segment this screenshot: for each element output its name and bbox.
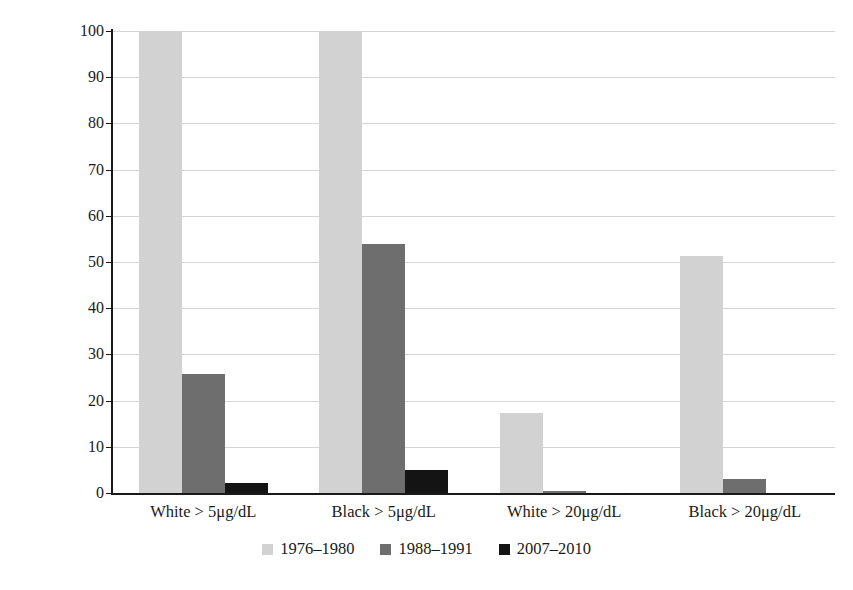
legend-swatch-icon	[380, 544, 391, 555]
bar	[500, 413, 543, 493]
bar	[225, 483, 268, 493]
y-axis-tick-labels: 1009080706050403020100	[58, 31, 104, 493]
bar	[405, 470, 448, 493]
bar	[182, 374, 225, 493]
legend-item: 1988–1991	[380, 540, 472, 558]
bar	[319, 31, 362, 493]
y-axis-title: % of U.S. children under age five	[10, 0, 36, 83]
legend-item: 1976–1980	[262, 540, 354, 558]
y-axis-tick-label: 0	[64, 485, 104, 501]
y-axis-tick-label: 80	[64, 115, 104, 131]
y-axis-tick-label: 10	[64, 439, 104, 455]
y-axis-tick-label: 60	[64, 208, 104, 224]
legend-label: 2007–2010	[517, 540, 591, 558]
bar	[362, 244, 405, 493]
y-axis-tick-label: 100	[64, 23, 104, 39]
y-axis-tick-label: 50	[64, 254, 104, 270]
bars-layer	[113, 31, 835, 493]
x-axis-tick-labels: White > 5μg/dLBlack > 5μg/dLWhite > 20μg…	[113, 500, 835, 530]
legend-swatch-icon	[499, 544, 510, 555]
y-axis-tick-label: 90	[64, 69, 104, 85]
y-axis-tick-label: 40	[64, 300, 104, 316]
legend-label: 1976–1980	[280, 540, 354, 558]
chart-legend: 1976–19801988–19912007–2010	[0, 540, 853, 558]
legend-label: 1988–1991	[398, 540, 472, 558]
x-axis-tick-label: Black > 20μg/dL	[655, 500, 836, 524]
bar-chart-figure: % of U.S. children under age five 100908…	[0, 0, 853, 590]
x-axis-tick-label: White > 20μg/dL	[474, 500, 655, 524]
bar	[543, 491, 586, 493]
legend-item: 2007–2010	[499, 540, 591, 558]
x-axis-tick-label: White > 5μg/dL	[113, 500, 294, 524]
legend-swatch-icon	[262, 544, 273, 555]
bar	[139, 31, 182, 493]
y-axis-tick-label: 30	[64, 346, 104, 362]
bar	[723, 479, 766, 493]
x-axis-line	[111, 493, 835, 495]
bar	[680, 256, 723, 493]
y-axis-tick-label: 20	[64, 393, 104, 409]
y-axis-tick-label: 70	[64, 162, 104, 178]
x-axis-tick-label: Black > 5μg/dL	[294, 500, 475, 524]
